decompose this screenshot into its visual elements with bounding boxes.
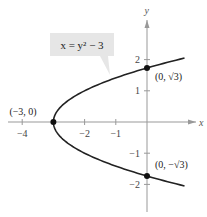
y-axis-label: y xyxy=(144,5,150,16)
x-axis-arrow-icon xyxy=(188,120,196,125)
y-axis-arrow-icon xyxy=(145,20,150,28)
x-axis-label: x xyxy=(198,117,204,128)
x-tick-label: −1 xyxy=(110,128,121,139)
y-tick-label: 1 xyxy=(135,85,140,96)
point-label: (0, √3) xyxy=(155,71,182,83)
equation-label: x = y² − 3 xyxy=(60,39,104,51)
y-tick-label: −1 xyxy=(129,148,140,159)
x-tick-label: −4 xyxy=(17,128,28,139)
x-tick-label: −2 xyxy=(79,128,90,139)
data-point xyxy=(144,173,150,179)
parabola-chart: xy−4−2−121−1−2 (−3, 0)(0, √3)(0, −√3) x … xyxy=(0,0,207,217)
data-point xyxy=(144,65,150,71)
point-label: (0, −√3) xyxy=(155,159,188,171)
equation-callout-tail xyxy=(100,56,110,75)
point-label: (−3, 0) xyxy=(9,106,36,118)
data-point xyxy=(50,119,56,125)
y-tick-label: 2 xyxy=(135,54,140,65)
chart-container: xy−4−2−121−1−2 (−3, 0)(0, √3)(0, −√3) x … xyxy=(0,0,207,217)
y-tick-label: −2 xyxy=(129,179,140,190)
